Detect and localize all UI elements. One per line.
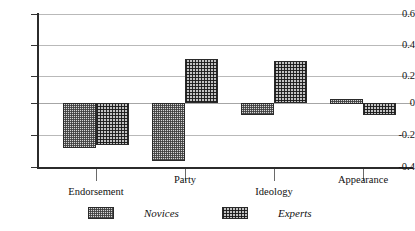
- bar-appearance-experts: [363, 103, 396, 115]
- y-tick-label-4: -0.2: [385, 130, 415, 140]
- chart-legend: Novices Experts: [0, 206, 415, 224]
- y-tick-mark-3: [31, 103, 37, 104]
- x-tick-mark-ideology: [274, 169, 275, 181]
- y-tick-label-0: 0.6: [385, 9, 415, 19]
- gridline-0.6: [37, 14, 412, 15]
- legend-label-novices: Novices: [144, 206, 179, 221]
- bar-ideology-novices: [241, 103, 274, 115]
- bar-chart: 0.6 0.4 0.2 0 -0.2 -0.4 Endorsement Part…: [0, 0, 415, 231]
- legend-label-experts: Experts: [278, 206, 312, 221]
- gridline-0.4: [37, 45, 412, 46]
- gridline-0.2: [37, 76, 412, 77]
- x-axis-line: [37, 167, 413, 169]
- y-tick-mark-2: [31, 76, 37, 77]
- x-label-ideology: Ideology: [255, 186, 292, 197]
- y-axis-line: [37, 13, 39, 169]
- y-tick-mark-1: [31, 45, 37, 46]
- y-tick-label-1: 0.4: [385, 40, 415, 50]
- x-label-party: Party: [174, 174, 196, 185]
- x-label-appearance: Appearance: [338, 174, 388, 185]
- x-label-endorsement: Endorsement: [68, 186, 123, 197]
- bar-appearance-novices: [330, 99, 363, 104]
- bar-ideology-experts: [274, 61, 307, 103]
- bar-endorsement-novices: [63, 103, 96, 148]
- y-tick-label-5: -0.4: [385, 162, 415, 172]
- x-tick-mark-endorsement: [96, 169, 97, 181]
- bar-party-experts: [185, 59, 218, 103]
- legend-swatch-novices: [88, 207, 114, 219]
- bar-endorsement-experts: [96, 103, 129, 145]
- y-tick-mark-5: [31, 167, 37, 168]
- y-tick-label-2: 0.2: [385, 71, 415, 81]
- bar-party-novices: [152, 103, 185, 161]
- y-tick-mark-4: [31, 135, 37, 136]
- y-tick-mark-0: [31, 14, 37, 15]
- legend-swatch-experts: [222, 207, 248, 219]
